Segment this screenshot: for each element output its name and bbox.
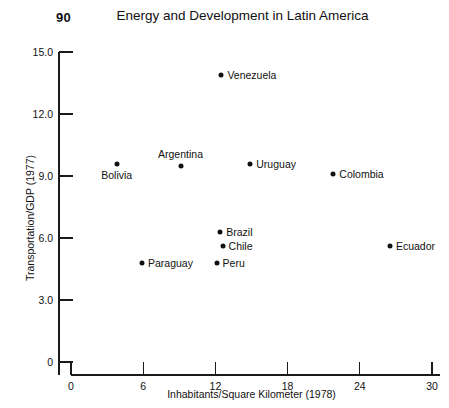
- data-point-label: Argentina: [158, 148, 203, 160]
- data-point: [178, 163, 183, 168]
- y-axis-tick-label: 15.0: [0, 46, 53, 58]
- data-point: [219, 72, 224, 77]
- data-point: [387, 244, 392, 249]
- data-point-label: Paraguay: [148, 257, 193, 269]
- y-axis-tick-label: 12.0: [0, 108, 53, 120]
- data-point-label: Chile: [229, 240, 253, 252]
- data-point-label: Brazil: [226, 226, 252, 238]
- data-point: [139, 260, 144, 265]
- data-point-label: Colombia: [339, 168, 383, 180]
- data-point-label: Ecuador: [396, 240, 435, 252]
- y-axis-tick-label: 0: [0, 356, 53, 368]
- data-point-label: Peru: [223, 257, 245, 269]
- data-point: [220, 244, 225, 249]
- data-point-label: Uruguay: [256, 158, 296, 170]
- data-point: [114, 161, 119, 166]
- data-point: [214, 260, 219, 265]
- plot-axes: [0, 0, 449, 408]
- y-axis-title: Transportation/GDP (1977): [24, 128, 36, 308]
- data-point: [331, 171, 336, 176]
- figure-page: 90 Energy and Development in Latin Ameri…: [0, 0, 449, 408]
- data-point: [218, 229, 223, 234]
- data-point-label: Bolivia: [101, 169, 132, 181]
- data-point: [248, 161, 253, 166]
- x-axis-title: Inhabitants/Square Kilometer (1978): [71, 388, 432, 400]
- data-point-label: Venezuela: [227, 69, 276, 81]
- scatter-plot: 03.06.09.012.015.0 0612182430 VenezuelaU…: [0, 0, 449, 408]
